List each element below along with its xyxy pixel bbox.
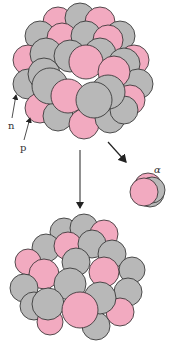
proton-label: p [20, 142, 26, 153]
daughter-nucleus [10, 214, 145, 340]
parent-nucleus [13, 3, 153, 139]
alpha-decay-diagram [0, 0, 172, 350]
neutron-pointer [12, 95, 16, 118]
alpha-label: α [154, 164, 161, 175]
proton-pointer [24, 118, 30, 140]
alpha-particle [130, 173, 165, 207]
neutron-label: n [8, 120, 14, 131]
emission-arrow [108, 142, 126, 162]
